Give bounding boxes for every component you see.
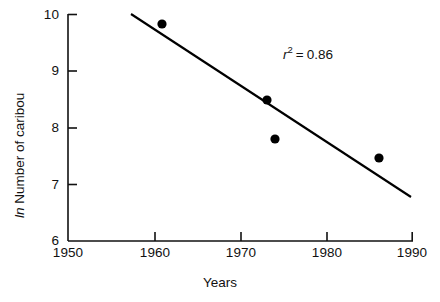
data-point-1961 <box>157 19 166 28</box>
x-tick-label-1980: 1980 <box>299 245 355 260</box>
y-axis-title-rest: Number of caribou <box>12 93 27 208</box>
caribou-decline-figure: 10 9 8 7 6 1950 1960 1970 1980 1990 ln N… <box>0 0 440 302</box>
r-squared-value: 0.86 <box>307 47 333 62</box>
r-squared-operator: = <box>293 47 307 62</box>
x-tick-label-1990: 1990 <box>384 245 440 260</box>
x-tick-label-1960: 1960 <box>127 245 183 260</box>
y-tick-label-8: 8 <box>33 120 59 135</box>
y-tick-label-10: 10 <box>33 7 59 22</box>
data-point-markers <box>157 19 383 162</box>
x-tick-label-1970: 1970 <box>213 245 269 260</box>
caption-remnant <box>10 293 430 302</box>
y-axis-title-italic-prefix: ln <box>12 207 27 218</box>
x-axis-ticks <box>155 232 412 241</box>
x-axis-title: Years <box>0 275 440 290</box>
x-tick-label-1950: 1950 <box>40 245 96 260</box>
regression-line <box>131 14 411 197</box>
y-axis-ticks <box>68 15 77 185</box>
y-tick-label-7: 7 <box>33 177 59 192</box>
r-squared-exponent: 2 <box>288 44 293 55</box>
r-squared-annotation: r2=0.86 <box>283 44 333 62</box>
data-point-1974 <box>270 134 279 143</box>
data-point-1973 <box>262 95 271 104</box>
y-axis-title: ln Number of caribou <box>12 93 27 218</box>
y-tick-label-9: 9 <box>33 63 59 78</box>
data-point-1986 <box>374 153 383 162</box>
